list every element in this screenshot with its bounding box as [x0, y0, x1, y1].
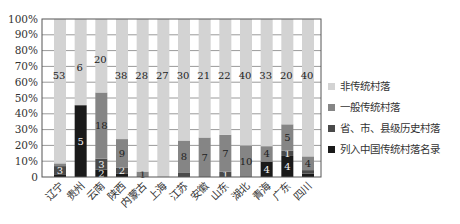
y-tick-label: 100%	[8, 13, 38, 25]
bar-segment	[302, 19, 314, 156]
bars: 3535623182029381282783072117221040443341…	[53, 19, 314, 180]
value-label: 40	[301, 70, 314, 81]
legend-swatch	[328, 83, 335, 90]
value-label: 20	[280, 70, 293, 81]
bar-stack: 353	[53, 19, 66, 177]
y-tick-label: 20%	[15, 139, 38, 151]
bar-stack: 721	[197, 19, 210, 177]
value-label: 33	[259, 70, 272, 81]
value-label: 30	[177, 70, 190, 81]
legend: 非传统村落一般传统村落省、市、县级历史村落列入中国传统村落名录	[328, 80, 441, 155]
bar-stack: 231820	[94, 19, 108, 179]
value-label: 10	[240, 156, 253, 167]
bar-segment	[302, 174, 314, 177]
bar-stack: 41520	[280, 19, 293, 177]
x-tick-label: 安徽	[187, 179, 210, 202]
bar-segment	[178, 173, 190, 177]
legend-label: 列入中国传统村落名录	[340, 143, 440, 155]
x-tick-label: 山东	[208, 180, 231, 203]
bar-stack: 440	[301, 19, 314, 177]
stacked-percent-bar-chart: 010%20%30%40%50%60%70%80%90%100% 3535623…	[0, 0, 460, 224]
y-tick-label: 0	[31, 171, 38, 183]
bar-segment	[302, 170, 314, 173]
value-label: 22	[218, 70, 231, 81]
value-label: 4	[305, 158, 311, 169]
y-axis: 010%20%30%40%50%60%70%80%90%100%	[8, 13, 38, 183]
value-label: 38	[115, 70, 128, 81]
bar-stack: 2938	[115, 19, 128, 177]
value-label: 4	[263, 164, 269, 175]
bar-segment	[240, 19, 252, 145]
value-label: 5	[77, 136, 83, 147]
legend-swatch	[328, 125, 335, 132]
bar-stack: 1040	[239, 19, 253, 177]
bar-segment	[137, 19, 149, 172]
bar-segment	[54, 19, 66, 163]
x-tick-label: 云南	[84, 180, 107, 203]
value-label: 9	[119, 148, 125, 159]
y-tick-label: 30%	[15, 123, 38, 135]
y-tick-label: 40%	[15, 107, 38, 119]
x-tick-label: 江苏	[167, 180, 190, 203]
value-label: 3	[98, 159, 104, 170]
value-label: 7	[222, 148, 228, 159]
value-label: 20	[94, 54, 107, 65]
bar-segment	[157, 19, 169, 177]
value-label: 6	[76, 62, 82, 73]
y-tick-label: 60%	[15, 76, 38, 88]
y-tick-label: 80%	[15, 44, 38, 56]
x-tick-label: 广东	[270, 180, 293, 203]
x-tick-label: 贵州	[63, 180, 86, 203]
legend-label: 非传统村落	[340, 80, 391, 92]
value-label: 40	[239, 70, 252, 81]
bar-stack: 128	[135, 19, 148, 180]
bar-stack: 1722	[218, 19, 231, 180]
value-label: 4	[284, 161, 290, 172]
x-tick-label: 湖北	[229, 179, 252, 202]
x-tick-label: 青海	[249, 179, 272, 202]
bar-segment	[54, 163, 66, 166]
y-tick-label: 70%	[15, 60, 38, 72]
value-label: 21	[197, 70, 210, 81]
bar-stack: 4433	[259, 19, 272, 177]
value-label: 53	[53, 70, 66, 81]
legend-label: 省、市、县级历史村落	[340, 122, 441, 134]
legend-label: 一般传统村落	[340, 101, 401, 113]
y-tick-label: 10%	[15, 155, 38, 167]
value-label: 7	[201, 152, 207, 163]
value-label: 28	[135, 70, 148, 81]
value-label: 5	[284, 132, 290, 143]
value-label: 27	[156, 70, 169, 81]
bar-stack: 830	[177, 19, 190, 177]
y-tick-label: 90%	[15, 28, 38, 40]
value-label: 8	[181, 151, 187, 162]
x-axis-labels: 辽宁贵州云南陕西内蒙古上海江苏安徽山东湖北青海广东四川	[43, 179, 314, 209]
x-tick-label: 辽宁	[43, 180, 66, 203]
bar-stack: 56	[75, 19, 87, 177]
x-tick-label: 上海	[146, 179, 169, 202]
x-tick-label: 四川	[291, 180, 314, 203]
y-tick-label: 50%	[15, 92, 38, 104]
legend-swatch	[328, 146, 335, 153]
bar-stack: 27	[156, 19, 169, 177]
value-label: 4	[263, 148, 269, 159]
value-label: 3	[57, 165, 63, 176]
legend-swatch	[328, 104, 335, 111]
bar-segment	[261, 19, 273, 146]
value-label: 18	[95, 120, 108, 131]
